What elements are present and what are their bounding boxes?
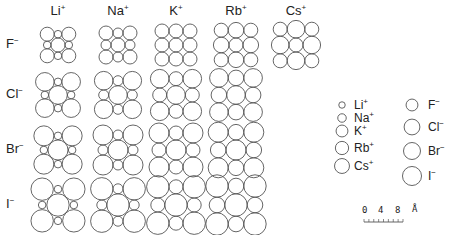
anion-I-circle — [123, 178, 145, 200]
ion-charge: + — [369, 158, 374, 167]
anion-Cl-circle — [150, 102, 169, 121]
ion-charge: + — [369, 140, 374, 149]
anion-F-circle — [244, 23, 258, 37]
cation-K-circle — [169, 104, 183, 118]
cation-Li-circle — [54, 160, 62, 168]
anion-F-circle — [40, 49, 54, 63]
anion-Cl-circle — [167, 86, 186, 105]
anion-F-circle — [123, 26, 137, 40]
anion-I-circle — [183, 176, 205, 198]
cation-Na-circle — [97, 200, 107, 210]
ion-symbol: Li — [51, 3, 61, 18]
cation-Li-circle — [65, 41, 73, 49]
cation-Rb-circle — [228, 70, 244, 86]
anion-Br-circle — [166, 140, 186, 160]
anion-F-circle — [51, 38, 65, 52]
cation-Rb-circle — [246, 142, 262, 158]
cation-Na-circle — [113, 104, 123, 114]
cation-Li-circle — [54, 185, 62, 193]
cation-Rb-circle — [228, 104, 244, 120]
anion-I-circle — [107, 194, 129, 216]
anion-Cl-circle — [183, 102, 202, 121]
cation-Rb-circle — [228, 22, 244, 38]
cation-Cs-circle — [303, 36, 321, 54]
cation-Li-circle — [68, 146, 76, 154]
cation-Rb-circle — [245, 87, 261, 103]
anion-Br-circle — [108, 140, 128, 160]
legend-label-rb: Rb+ — [354, 140, 374, 155]
column-label-na: Na+ — [98, 3, 138, 18]
column-label-cs: Cs+ — [276, 3, 316, 18]
anion-F-circle — [111, 38, 125, 52]
cation-Na-circle — [113, 216, 123, 226]
anion-F-circle — [289, 38, 303, 52]
anion-F-circle — [40, 27, 54, 41]
anion-Br-circle — [226, 140, 246, 160]
anion-I-circle — [225, 194, 247, 216]
ion-charge: + — [362, 123, 367, 132]
ion-symbol: K — [354, 124, 362, 138]
column-label-li: Li+ — [38, 3, 78, 18]
legend-rb-circle — [335, 141, 348, 154]
anion-Br-circle — [244, 122, 264, 142]
ion-charge: − — [439, 119, 444, 128]
anion-Br-circle — [149, 157, 169, 177]
ion-charge: − — [14, 36, 19, 45]
anion-F-circle — [62, 49, 76, 63]
anion-Cl-circle — [109, 86, 128, 105]
legend-label-k: K+ — [354, 123, 367, 138]
cation-Cs-circle — [287, 20, 305, 38]
anion-F-circle — [169, 38, 183, 52]
cation-K-circle — [169, 216, 183, 230]
anion-Br-circle — [149, 123, 169, 143]
anion-F-circle — [183, 24, 197, 38]
ion-symbol: F — [6, 36, 14, 51]
cation-Cs-circle — [287, 52, 305, 70]
anion-Br-circle — [93, 125, 113, 145]
cation-K-circle — [169, 180, 183, 194]
cation-K-circle — [183, 38, 197, 52]
ion-packing-svg — [0, 0, 460, 235]
cation-Na-circle — [99, 90, 109, 100]
anion-I-circle — [165, 194, 187, 216]
column-label-k: K+ — [156, 3, 196, 18]
anion-I-circle — [91, 210, 113, 232]
cation-Rb-circle — [228, 160, 244, 176]
anion-Cl-circle — [227, 86, 246, 105]
ion-symbol: Cl — [6, 86, 18, 101]
cation-K-circle — [169, 126, 183, 140]
anion-I-circle — [123, 210, 145, 232]
ion-charge: + — [178, 3, 183, 12]
anion-F-circle — [244, 53, 258, 67]
anion-Br-circle — [208, 122, 228, 142]
row-label-br: Br− — [6, 141, 24, 156]
cation-Li-circle — [54, 217, 62, 225]
column-label-rb: Rb+ — [216, 3, 256, 18]
legend-br-circle — [404, 143, 421, 160]
cation-K-circle — [186, 143, 200, 157]
anion-Cl-circle — [183, 69, 202, 88]
cation-Rb-circle — [228, 52, 244, 68]
cation-Na-circle — [113, 76, 123, 86]
cation-Li-circle — [54, 52, 62, 60]
ion-symbol: Rb — [354, 141, 369, 155]
cation-Na-circle — [113, 28, 123, 38]
cation-Na-circle — [113, 52, 123, 62]
cation-Li-circle — [54, 78, 62, 86]
ion-charge: − — [10, 196, 15, 205]
anion-Br-circle — [123, 155, 143, 175]
legend-li-circle — [339, 102, 345, 108]
cation-K-circle — [169, 24, 183, 38]
ion-charge: + — [302, 3, 307, 12]
cation-Rb-circle — [228, 124, 244, 140]
anion-F-circle — [155, 24, 169, 38]
cation-Na-circle — [127, 90, 137, 100]
ion-charge: − — [435, 97, 440, 106]
cation-Rb-circle — [209, 197, 225, 213]
cation-K-circle — [155, 38, 169, 52]
anion-F-circle — [99, 26, 113, 40]
cation-K-circle — [169, 52, 183, 66]
legend-cl-circle — [404, 119, 420, 135]
scale-tick-label: 0 — [362, 205, 367, 215]
anion-F-circle — [305, 22, 319, 36]
